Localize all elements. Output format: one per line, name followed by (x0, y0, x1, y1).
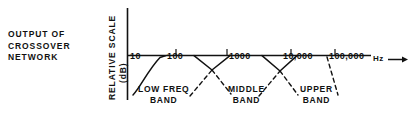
low-band-falling-skirt-solid (194, 56, 212, 70)
band-label-low-freq-line-2: BAND (138, 95, 189, 106)
band-label-low-freq-line-1: LOW FREQ (138, 84, 189, 95)
x-tick-label-100000: 100,000 (329, 51, 364, 61)
band-label-upper-line-2: BAND (300, 95, 333, 106)
x-axis-unit-label: Hz (373, 54, 384, 63)
x-tick-label-10: 10 (130, 51, 141, 61)
x-tick-label-100: 100 (167, 51, 183, 61)
middle-band-falling-skirt-solid (262, 56, 280, 71)
middle-band-rising-skirt-solid (212, 56, 230, 70)
band-label-middle: MIDDLE BAND (228, 84, 265, 105)
band-label-upper-line-1: UPPER (300, 84, 333, 95)
x-tick-label-1000: 1000 (229, 51, 251, 61)
x-tick-label-10000: 10,000 (283, 51, 313, 61)
middle-band-falling-skirt-dashed (280, 71, 298, 95)
band-label-middle-line-1: MIDDLE (228, 84, 265, 95)
x-axis-arrow-icon (388, 57, 408, 63)
band-label-upper: UPPER BAND (300, 84, 333, 105)
band-label-low-freq: LOW FREQ BAND (138, 84, 189, 105)
crossover-network-response-figure: OUTPUT OF CROSSOVER NETWORK RELATIVE SCA… (0, 0, 411, 113)
middle-band-rising-skirt-dashed (190, 70, 212, 96)
band-label-middle-line-2: BAND (228, 95, 265, 106)
